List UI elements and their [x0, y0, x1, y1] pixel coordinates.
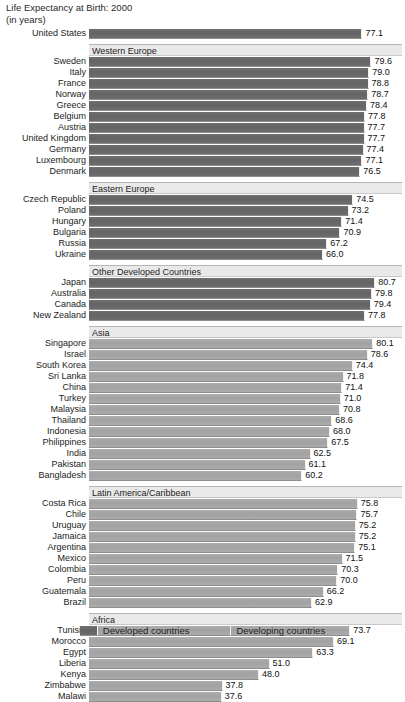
bar-value-label: 67.2	[330, 238, 348, 249]
bar	[89, 239, 327, 249]
chart-bar-row: Uruguay75.2	[0, 520, 405, 531]
bar-track: 61.1	[89, 459, 405, 470]
bar-track: 70.9	[89, 227, 405, 238]
chart-subtitle: (in years)	[6, 14, 132, 26]
bar	[89, 554, 343, 564]
bar-track: 74.4	[89, 360, 405, 371]
chart-bar-row: Mexico71.5	[0, 553, 405, 564]
bar-category-label: Bulgaria	[0, 227, 86, 238]
bar-value-label: 79.0	[372, 67, 390, 78]
chart-plot-area: United States77.1Western EuropeSweden79.…	[0, 28, 405, 702]
bar-value-label: 77.4	[367, 144, 385, 155]
bar	[89, 510, 357, 520]
chart-bar-row: Greece78.4	[0, 100, 405, 111]
bar-track: 70.0	[89, 575, 405, 586]
bar-track: 71.5	[89, 553, 405, 564]
bar-category-label: United Kingdom	[0, 133, 86, 144]
bar-category-label: Israel	[0, 349, 86, 360]
chart-bar-row: India62.5	[0, 448, 405, 459]
legend-item-developing: Developing countries	[213, 625, 325, 636]
bar-track: 66.0	[89, 249, 405, 260]
bar-value-label: 76.5	[363, 166, 381, 177]
bar-track: 69.1	[89, 636, 405, 647]
bar	[89, 57, 371, 67]
bar-value-label: 79.6	[374, 56, 392, 67]
bar-category-label: Canada	[0, 299, 86, 310]
chart-bar-row: Poland73.2	[0, 205, 405, 216]
bar-track: 68.0	[89, 426, 405, 437]
chart-bar-row: Malawi37.6	[0, 691, 405, 702]
bar-category-label: Liberia	[0, 658, 86, 669]
bar	[89, 521, 356, 531]
bar	[89, 217, 342, 227]
chart-bar-row: Pakistan61.1	[0, 459, 405, 470]
bar-value-label: 71.4	[345, 382, 363, 393]
bar-track: 67.5	[89, 437, 405, 448]
bar-track: 79.6	[89, 56, 405, 67]
bar-track: 77.1	[89, 155, 405, 166]
bar	[89, 90, 368, 100]
bar-track: 63.3	[89, 647, 405, 658]
bar	[89, 112, 365, 122]
chart-bar-row: Australia79.8	[0, 288, 405, 299]
chart-bar-row: Kenya48.0	[0, 669, 405, 680]
bar-track: 37.6	[89, 691, 405, 702]
bar-track: 60.2	[89, 470, 405, 481]
bar-value-label: 74.5	[356, 194, 374, 205]
bar	[89, 394, 341, 404]
bar	[89, 350, 368, 360]
bar-category-label: Czech Republic	[0, 194, 86, 205]
bar-category-label: Jamaica	[0, 531, 86, 542]
bar-track: 71.8	[89, 371, 405, 382]
bar-value-label: 62.5	[314, 448, 332, 459]
bar	[89, 659, 270, 669]
bar-track: 67.2	[89, 238, 405, 249]
legend-swatch-developed-icon	[80, 626, 98, 636]
bar	[89, 156, 362, 166]
bar-value-label: 80.1	[376, 338, 394, 349]
chart-legend: Developed countries Developing countries	[0, 625, 405, 636]
bar-value-label: 77.8	[368, 310, 386, 321]
bar-category-label: China	[0, 382, 86, 393]
bar	[89, 416, 332, 426]
chart-bar-row: Costa Rica75.8	[0, 498, 405, 509]
bar	[89, 460, 306, 470]
page-title: Life Expectancy at Birth: 2000	[6, 2, 132, 14]
bar	[89, 145, 364, 155]
bar-track: 71.0	[89, 393, 405, 404]
bar-track: 78.8	[89, 78, 405, 89]
bar	[89, 339, 373, 349]
bar-track: 76.5	[89, 166, 405, 177]
bar	[89, 532, 356, 542]
chart-bar-row: France78.8	[0, 78, 405, 89]
bar-category-label: Singapore	[0, 338, 86, 349]
bar-track: 71.4	[89, 216, 405, 227]
chart-bar-row: Singapore80.1	[0, 338, 405, 349]
chart-bar-row: Italy79.0	[0, 67, 405, 78]
bar-value-label: 62.9	[315, 597, 333, 608]
bar-track: 77.8	[89, 111, 405, 122]
chart-group: Western EuropeSweden79.6Italy79.0France7…	[0, 44, 405, 177]
bar-value-label: 70.3	[341, 564, 359, 575]
bar-category-label: Austria	[0, 122, 86, 133]
bar	[89, 405, 340, 415]
bar-category-label: Turkey	[0, 393, 86, 404]
bar-track: 77.7	[89, 122, 405, 133]
bar	[89, 670, 259, 680]
group-header-band: Eastern Europe	[89, 182, 402, 194]
bar	[89, 311, 365, 321]
bar-category-label: Indonesia	[0, 426, 86, 437]
bar-value-label: 75.7	[360, 509, 378, 520]
bar-track: 74.5	[89, 194, 405, 205]
bar-value-label: 79.4	[374, 299, 392, 310]
bar-value-label: 75.2	[359, 520, 377, 531]
legend-label-developing: Developing countries	[236, 625, 325, 636]
bar-category-label: Denmark	[0, 166, 86, 177]
bar	[89, 289, 372, 299]
bar-category-label: Germany	[0, 144, 86, 155]
bar-value-label: 61.1	[309, 459, 327, 470]
bar-value-label: 70.8	[343, 404, 361, 415]
bar-category-label: Guatemala	[0, 586, 86, 597]
chart-bar-row: Japan80.7	[0, 277, 405, 288]
